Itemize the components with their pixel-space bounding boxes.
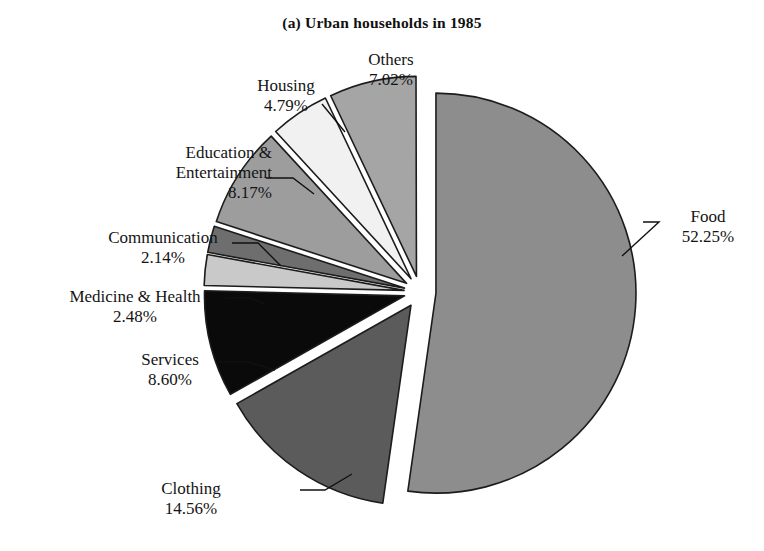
slice-label-services: Services8.60% [122,350,218,390]
slice-label-value-housing: 4.79% [236,96,336,116]
slice-label-name-food: Food [668,207,748,227]
slice-label-name-others: Others [351,50,431,70]
slice-label-medicine-health: Medicine & Health2.48% [40,287,230,327]
slice-label-name-education-entertainment-line2: Entertainment [112,163,272,183]
slice-label-value-education-entertainment: 8.17% [112,183,272,203]
slice-label-name-education-entertainment: Education &Entertainment [112,143,272,183]
slice-label-value-communication: 2.14% [88,248,238,268]
slice-label-value-clothing: 14.56% [136,499,246,519]
slice-label-name-housing: Housing [236,76,336,96]
slice-label-name-clothing: Clothing [136,479,246,499]
slice-label-value-food: 52.25% [668,227,748,247]
slice-label-education-entertainment: Education &Entertainment8.17% [112,143,272,203]
slice-label-food: Food52.25% [668,207,748,247]
slice-label-housing: Housing4.79% [236,76,336,116]
slice-label-communication: Communication2.14% [88,228,238,268]
slice-label-name-services: Services [122,350,218,370]
pie-slice-food[interactable] [408,93,636,493]
slice-label-others: Others7.02% [351,50,431,90]
slice-label-name-medicine-health: Medicine & Health [40,287,230,307]
slice-label-name-communication: Communication [88,228,238,248]
slice-label-value-services: 8.60% [122,370,218,390]
slice-label-name-education-entertainment-line1: Education & [112,143,272,163]
slice-label-clothing: Clothing14.56% [136,479,246,519]
pie-chart-figure: (a) Urban households in 1985 Food52.25%C… [0,0,764,551]
slice-label-value-others: 7.02% [351,70,431,90]
slice-label-value-medicine-health: 2.48% [40,307,230,327]
